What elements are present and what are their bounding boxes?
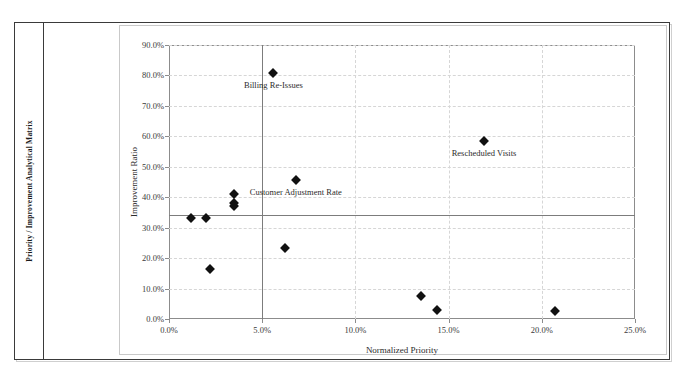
y-axis-tick-label: 80.0% bbox=[142, 70, 164, 80]
x-axis-title: Normalized Priority bbox=[169, 345, 635, 355]
x-axis-tick-mark bbox=[262, 319, 263, 323]
y-axis-tick-mark bbox=[165, 289, 169, 290]
gridline-horizontal bbox=[169, 197, 635, 198]
data-point-label: Rescheduled Visits bbox=[452, 148, 517, 158]
data-point-label: Billing Re-Issues bbox=[244, 80, 303, 90]
x-axis-tick-label: 25.0% bbox=[624, 325, 646, 335]
x-axis-tick-label: 0.0% bbox=[160, 325, 178, 335]
y-axis-tick-mark bbox=[165, 106, 169, 107]
gridline-horizontal bbox=[169, 75, 635, 76]
x-axis-tick-mark bbox=[542, 319, 543, 323]
sidebar-column: Priority / Improvement Analytical Matrix bbox=[14, 22, 44, 360]
gridline-vertical bbox=[449, 45, 450, 319]
x-axis-tick-label: 15.0% bbox=[438, 325, 460, 335]
x-axis-tick-mark bbox=[355, 319, 356, 323]
y-axis-title: Improvement Ratio bbox=[129, 147, 139, 217]
y-axis-tick-label: 40.0% bbox=[142, 192, 164, 202]
y-axis-tick-mark bbox=[165, 197, 169, 198]
x-axis-tick-mark bbox=[449, 319, 450, 323]
gridline-horizontal bbox=[169, 167, 635, 168]
sidebar-title: Priority / Improvement Analytical Matrix bbox=[24, 120, 33, 262]
plot-border bbox=[169, 45, 635, 319]
gridline-horizontal bbox=[169, 258, 635, 259]
gridline-horizontal bbox=[169, 45, 635, 46]
gridline-horizontal bbox=[169, 106, 635, 107]
data-point-label: Customer Adjustment Rate bbox=[250, 187, 342, 197]
y-axis-tick-mark bbox=[165, 136, 169, 137]
gridline-vertical bbox=[355, 45, 356, 319]
x-axis-tick-mark bbox=[169, 319, 170, 323]
gridline-horizontal bbox=[169, 289, 635, 290]
y-axis-tick-mark bbox=[165, 45, 169, 46]
x-axis-tick-mark bbox=[635, 319, 636, 323]
gridline-horizontal bbox=[169, 136, 635, 137]
y-axis-tick-label: 10.0% bbox=[142, 284, 164, 294]
x-axis-tick-label: 10.0% bbox=[344, 325, 366, 335]
scatter-plot-area: 0.0%10.0%20.0%30.0%40.0%50.0%60.0%70.0%8… bbox=[169, 45, 635, 319]
y-axis-tick-label: 0.0% bbox=[146, 314, 164, 324]
y-axis-tick-mark bbox=[165, 228, 169, 229]
y-axis-tick-label: 50.0% bbox=[142, 162, 164, 172]
x-axis-tick-label: 20.0% bbox=[531, 325, 553, 335]
page-root: Priority / Improvement Analytical Matrix… bbox=[0, 0, 688, 384]
y-axis-tick-mark bbox=[165, 167, 169, 168]
y-axis-tick-label: 30.0% bbox=[142, 223, 164, 233]
y-axis-tick-mark bbox=[165, 258, 169, 259]
threshold-line-horizontal bbox=[169, 215, 635, 216]
x-axis-tick-label: 5.0% bbox=[253, 325, 271, 335]
gridline-vertical bbox=[542, 45, 543, 319]
y-axis-tick-label: 60.0% bbox=[142, 131, 164, 141]
y-axis-tick-label: 20.0% bbox=[142, 253, 164, 263]
y-axis-tick-label: 70.0% bbox=[142, 101, 164, 111]
y-axis-tick-label: 90.0% bbox=[142, 40, 164, 50]
gridline-horizontal bbox=[169, 228, 635, 229]
y-axis-tick-mark bbox=[165, 75, 169, 76]
